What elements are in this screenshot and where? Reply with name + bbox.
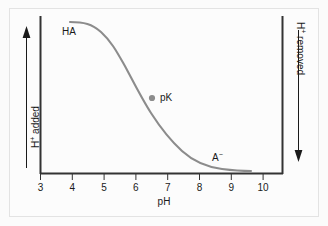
annotation-ha: HA: [62, 26, 76, 37]
right-axis-label-suffix: removed: [295, 33, 306, 75]
left-axis-label: H+ added: [30, 106, 41, 148]
annotation-a-minus-sup: −: [219, 151, 223, 158]
xtick-label-3: 3: [31, 182, 51, 193]
annotation-a-minus: A−: [212, 152, 223, 163]
x-axis-ticks: [41, 174, 264, 180]
annotation-pk: pK: [160, 92, 172, 103]
right-axis-label: H+ removed: [295, 22, 306, 75]
xtick-label-5: 5: [94, 182, 114, 193]
pk-marker-dot: [149, 95, 155, 101]
xtick-label-10: 10: [253, 182, 273, 193]
annotation-a-minus-base: A: [212, 152, 219, 163]
xtick-label-7: 7: [158, 182, 178, 193]
left-axis-label-prefix: H: [30, 141, 41, 148]
titration-curve-figure: 3 4 5 6 7 8 9 10 pH HA pK A− H+ added H+…: [0, 0, 328, 226]
left-axis-label-sup: +: [29, 137, 36, 141]
xtick-label-8: 8: [190, 182, 210, 193]
x-axis-title: pH: [0, 196, 328, 207]
xtick-label-4: 4: [62, 182, 82, 193]
left-axis-label-suffix: added: [30, 106, 41, 137]
xtick-label-6: 6: [126, 182, 146, 193]
xtick-label-9: 9: [221, 182, 241, 193]
